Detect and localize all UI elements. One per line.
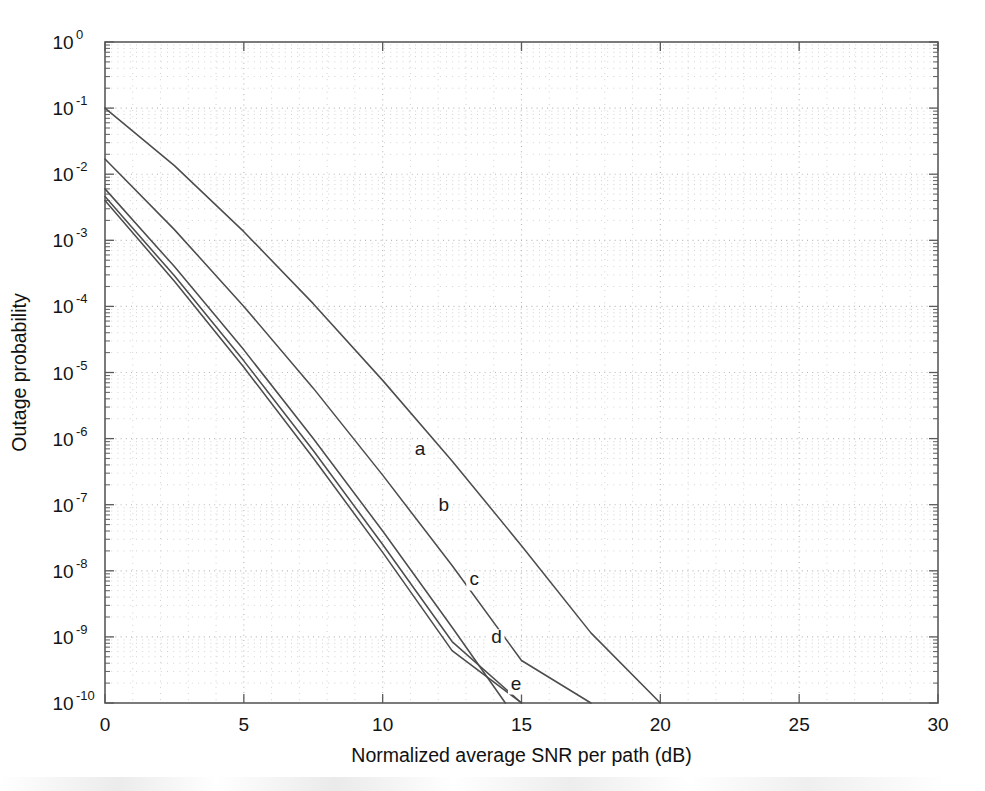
y-tick-label-exponent: 0 [76,27,83,42]
y-tick-label-exponent: -3 [76,225,88,240]
y-tick-label-exponent: -1 [76,93,88,108]
y-axis-title-text: Outage probability [8,293,30,452]
outage-probability-chart: abcde 051015202530 10010-110-210-310-410… [0,0,985,791]
x-tick-label: 30 [927,714,948,735]
y-axis-title: Outage probability [8,293,30,452]
x-axis-title: Normalized average SNR per path (dB) [351,744,691,766]
x-axis-title-text: Normalized average SNR per path (dB) [351,744,691,766]
y-tick-label-mantissa: 10 [52,296,73,317]
y-tick-label-exponent: -7 [76,490,88,505]
y-tick-label-exponent: -4 [76,291,88,306]
y-tick-label-exponent: -6 [76,424,88,439]
y-tick-label-exponent: -5 [76,358,88,373]
y-tick-label-mantissa: 10 [52,164,73,185]
curve-label-d: d [491,626,502,647]
y-tick-label-exponent: -10 [76,688,95,703]
y-tick-label-mantissa: 10 [52,561,73,582]
x-tick-label: 0 [100,714,111,735]
x-tick-label: 15 [511,714,532,735]
curve-label-b: b [438,494,449,515]
figure-container: abcde 051015202530 10010-110-210-310-410… [0,0,985,791]
y-tick-label-mantissa: 10 [52,693,73,714]
y-tick-label-exponent: -8 [76,556,88,571]
x-tick-label: 20 [650,714,671,735]
x-tick-label: 10 [372,714,393,735]
y-tick-label-exponent: -9 [76,622,88,637]
x-tick-label: 25 [789,714,810,735]
x-tick-label: 5 [239,714,250,735]
curve-label-c: c [470,568,480,589]
y-tick-label-mantissa: 10 [52,495,73,516]
y-tick-label-mantissa: 10 [52,429,73,450]
y-tick-label-mantissa: 10 [52,32,73,53]
y-tick-label-mantissa: 10 [52,363,73,384]
curve-label-e: e [511,673,522,694]
y-tick-label-mantissa: 10 [52,230,73,251]
y-tick-label-mantissa: 10 [52,627,73,648]
y-tick-label-exponent: -2 [76,159,88,174]
y-tick-label-mantissa: 10 [52,98,73,119]
curve-label-a: a [415,438,426,459]
